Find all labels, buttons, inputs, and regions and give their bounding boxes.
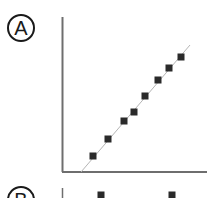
data-point	[105, 136, 112, 143]
data-point	[178, 54, 185, 61]
data-point	[142, 93, 149, 100]
data-point	[90, 153, 97, 160]
data-point	[131, 109, 138, 116]
data-point	[169, 192, 176, 199]
chart-area	[0, 0, 207, 198]
data-point	[155, 77, 162, 84]
scatter-panel-a	[62, 17, 207, 172]
data-point	[98, 192, 105, 199]
data-point	[121, 118, 128, 125]
data-markers-b	[98, 192, 176, 199]
scatter-panel-b	[63, 188, 176, 198]
data-point	[166, 65, 173, 72]
